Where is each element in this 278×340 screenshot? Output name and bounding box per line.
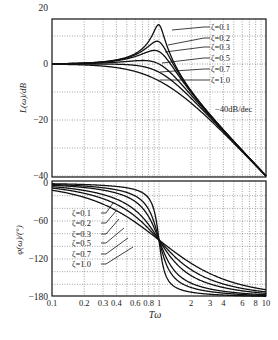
x-tick-label: 0.4	[111, 298, 122, 308]
x-tick-label: 1	[157, 298, 161, 308]
x-tick-label: 6	[240, 298, 244, 308]
legend-label: ζ=0.1	[72, 208, 91, 218]
slope-annotation: −40dB/dec	[215, 104, 253, 114]
legend-label: ζ=0.7	[72, 249, 91, 259]
y-tick-label: −20	[33, 115, 48, 125]
upper-grid	[52, 19, 266, 177]
x-axis-label: Tω	[149, 309, 162, 320]
y-tick-label: 0	[43, 59, 48, 69]
x-tick-label: 4	[221, 298, 226, 308]
magnitude-plot-frame	[52, 19, 266, 177]
legend-label: ζ=0.5	[211, 53, 230, 63]
legend-label: ζ=0.2	[72, 218, 91, 228]
x-tick-label: 8	[254, 298, 258, 308]
y-tick-label: 0	[43, 178, 48, 188]
y-tick-label: −180	[28, 292, 48, 302]
y-tick-label: −60	[33, 216, 48, 226]
x-tick-label: 0.3	[98, 298, 109, 308]
legend-label: ζ=1.0	[72, 259, 91, 269]
legend-label: ζ=0.3	[211, 42, 230, 52]
x-tick-label: 0.6	[130, 298, 141, 308]
legend-label: ζ=0.1	[211, 22, 230, 32]
axis-ticks: 200−20−400−60−120−1800.10.20.30.40.60.81…	[28, 3, 270, 308]
x-tick-label: 3	[208, 298, 212, 308]
x-tick-label: 2	[189, 298, 193, 308]
legend-label: ζ=0.7	[211, 64, 230, 74]
legend-label: ζ=0.5	[72, 238, 91, 248]
x-tick-label: 0.1	[47, 298, 58, 308]
x-tick-label: 0.8	[143, 298, 154, 308]
x-tick-label: 0.2	[79, 298, 90, 308]
y-tick-label: −120	[28, 254, 48, 264]
bode-plot: ζ=0.1ζ=0.2ζ=0.3ζ=0.5ζ=0.7ζ=1.0 ζ=0.1ζ=0.…	[0, 0, 278, 340]
magnitude-y-label: L(ω)/dB	[18, 83, 28, 114]
legend-label: ζ=1.0	[211, 75, 230, 85]
y-tick-label: 20	[39, 3, 49, 13]
magnitude-curve	[52, 61, 266, 176]
phase-y-label: φ(ω)/(°)	[14, 225, 24, 254]
x-tick-label: 10	[262, 298, 271, 308]
